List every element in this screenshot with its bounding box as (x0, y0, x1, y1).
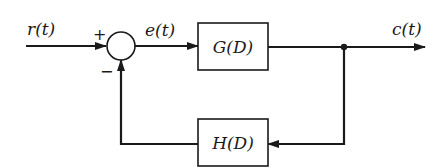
block-diagram: r(t) + − e(t) G(D) c(t) H(D) (0, 0, 443, 168)
forward-block-label: G(D) (213, 37, 253, 57)
minus-sign: − (100, 62, 113, 81)
feedback-block-label: H(D) (211, 133, 254, 153)
summing-junction (107, 32, 135, 60)
error-label: e(t) (145, 20, 175, 40)
output-label: c(t) (392, 19, 422, 39)
plus-sign: + (93, 25, 106, 44)
feedback-wire-right (268, 47, 344, 144)
input-label: r(t) (27, 19, 55, 39)
feedback-wire-left (121, 60, 198, 144)
